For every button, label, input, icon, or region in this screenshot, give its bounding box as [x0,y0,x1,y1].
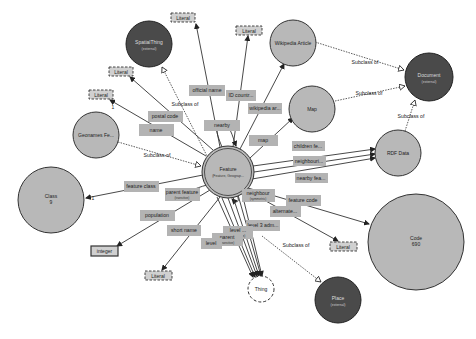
property-map[interactable]: map [249,135,278,146]
svg-text:1: 1 [92,195,95,201]
class-node-rdf-data[interactable]: RDF Data [375,130,421,176]
property-feature-class[interactable]: feature class [124,181,159,192]
svg-text:official name: official name [192,87,221,93]
svg-text:Place: Place [332,295,345,301]
svg-text:short name: short name [171,227,197,233]
svg-text:feature class: feature class [126,183,156,189]
thing-node[interactable]: Thing [248,276,274,302]
svg-text:nearby: nearby [214,122,230,128]
property-nearby-features[interactable]: nearby fea... [295,173,328,183]
literal-node[interactable]: Literal [109,67,133,76]
subclass-label: Subclass of [356,90,383,96]
svg-text:level ...: level ... [230,227,246,233]
property-nearby[interactable]: nearby [204,120,240,131]
svg-text:population: population [145,212,169,218]
svg-text:Feature: Feature [219,166,236,172]
svg-text:Geonames Fe...: Geonames Fe... [78,132,114,138]
property-children-features[interactable]: children fe... [292,141,325,151]
svg-text:(symmetric): (symmetric) [250,197,267,201]
svg-text:ID countr...: ID countr... [228,92,253,98]
subclass-label: Subclass of [172,101,199,107]
svg-text:(Feature, Geograp...: (Feature, Geograp... [212,174,244,178]
property-neighbouring[interactable]: neighbouri... [293,156,326,166]
svg-text:nearby fea...: nearby fea... [297,175,326,181]
subclass-label: Subclass of [398,113,425,119]
class-node-code[interactable]: Code 690 [368,194,464,290]
svg-text:alternate...: alternate... [273,208,298,214]
property-parent-feature[interactable]: parent feature(transitive) [165,188,200,201]
property-name[interactable]: name [139,124,174,136]
class-node-class[interactable]: Class 9 [18,167,84,233]
property-feature-code[interactable]: feature code [286,195,321,206]
svg-text:(external): (external) [331,303,346,307]
literal-node[interactable]: Literal [236,26,262,35]
class-node-spatialthing[interactable]: SpatialThing (external) [126,21,172,67]
svg-text:name: name [150,127,163,133]
property-alternate-name[interactable]: alternate... [270,206,301,217]
property-short-name[interactable]: short name [167,225,201,236]
svg-text:Literal: Literal [336,244,350,250]
svg-text:RDF Data: RDF Data [387,150,409,156]
svg-text:Wikipedia Article: Wikipedia Article [275,40,312,46]
svg-text:Literal: Literal [94,92,108,98]
property-id-country[interactable]: ID countr... [226,90,256,101]
subclass-label: Subclass of [283,242,310,248]
class-node-document[interactable]: Document (external) [405,53,453,101]
svg-text:Literal: Literal [114,69,128,75]
svg-text:(external): (external) [422,80,437,84]
property-level[interactable]: level [201,238,222,249]
literal-node[interactable]: Literal [89,90,113,99]
literal-node[interactable]: Literal [330,242,357,251]
svg-text:neighbour: neighbour [246,190,269,196]
class-node-wikipedia-article[interactable]: Wikipedia Article [270,20,316,66]
datatype-node-integer[interactable]: integer [91,246,118,256]
svg-text:1: 1 [112,104,115,110]
svg-text:Map: Map [307,106,317,112]
svg-text:Thing: Thing [255,286,268,292]
svg-text:integer: integer [97,248,113,254]
literal-node[interactable]: Literal [145,271,172,280]
subclass-label: Subclass of [352,59,379,65]
class-node-map[interactable]: Map [289,86,335,132]
svg-text:feature code: feature code [289,197,318,203]
property-official-name[interactable]: official name [189,85,225,96]
svg-text:SpatialThing: SpatialThing [135,39,163,45]
literal-node[interactable]: Literal [171,13,195,22]
svg-text:map: map [258,137,268,143]
svg-text:level: level [206,240,217,246]
svg-text:neighbouri...: neighbouri... [295,158,324,164]
svg-text:(external): (external) [142,47,157,51]
svg-text:children fe...: children fe... [294,143,322,149]
svg-text:Literal: Literal [151,273,165,279]
svg-text:Literal: Literal [176,15,190,21]
property-postal-code[interactable]: postal code [148,111,183,122]
svg-text:postal code: postal code [152,113,179,119]
svg-text:(transitive): (transitive) [175,196,190,200]
ontology-graph-canvas[interactable]: SpatialThing (external) Wikipedia Articl… [0,0,476,339]
class-node-place[interactable]: Place (external) [315,277,361,323]
svg-text:Document: Document [418,72,441,78]
subclass-label: Subclass of [144,152,171,158]
svg-text:wikipedia ar...: wikipedia ar... [249,105,280,111]
svg-text:parent feature: parent feature [166,189,198,195]
property-neighbour[interactable]: neighbour(symmetric) [242,189,275,202]
class-node-geonames-feature[interactable]: Geonames Fe... [73,112,119,158]
property-wikipedia-article[interactable]: wikipedia ar... [248,103,282,114]
svg-text:690: 690 [412,241,421,247]
svg-text:Literal: Literal [242,28,256,34]
property-population[interactable]: population [140,210,175,221]
svg-text:9: 9 [50,199,53,205]
